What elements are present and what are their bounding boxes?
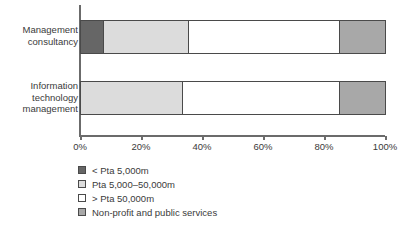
x-axis-tick-label-4: 80% [314, 141, 333, 152]
bar-segment-1 [80, 81, 183, 115]
legend-swatch-icon-2 [78, 194, 86, 202]
x-axis-tick-4 [324, 136, 326, 140]
x-axis-line [79, 135, 385, 137]
legend-label-3: Non-profit and public services [92, 207, 217, 218]
x-axis-tick-label-0: 0% [73, 141, 87, 152]
category-label-management-consultancy: Management consultancy [0, 24, 78, 47]
legend-label-0: < Pta 5,000m [92, 165, 149, 176]
bar-segment-3 [339, 20, 386, 54]
x-axis-tick-2 [202, 136, 204, 140]
bar-segment-1 [103, 20, 189, 54]
bar-segment-0 [80, 20, 104, 54]
bar-management-consultancy [80, 20, 386, 54]
chart-legend: < Pta 5,000mPta 5,000–50,000m> Pta 50,00… [78, 163, 217, 219]
x-axis-tick-label-3: 60% [253, 141, 272, 152]
legend-swatch-icon-0 [78, 166, 86, 174]
legend-swatch-icon-1 [78, 180, 86, 188]
legend-item-3[interactable]: Non-profit and public services [78, 205, 217, 219]
legend-label-2: > Pta 50,000m [92, 193, 154, 204]
x-axis-tick-label-5: 100% [373, 141, 397, 152]
legend-label-1: Pta 5,000–50,000m [92, 179, 175, 190]
x-axis-tick-3 [263, 136, 265, 140]
bar-segment-3 [339, 81, 386, 115]
bar-segment-2 [182, 81, 340, 115]
bar-segment-2 [188, 20, 340, 54]
legend-swatch-icon-3 [78, 208, 86, 216]
category-label-information-technology-management: Information technology management [0, 80, 78, 115]
x-axis-tick-0 [80, 136, 82, 140]
legend-item-2[interactable]: > Pta 50,000m [78, 191, 217, 205]
x-axis-tick-label-1: 20% [131, 141, 150, 152]
bar-information-technology-management [80, 81, 386, 115]
x-axis-tick-5 [385, 136, 387, 140]
stacked-bar-chart: Management consultancy Information techn… [0, 0, 407, 236]
legend-item-0[interactable]: < Pta 5,000m [78, 163, 217, 177]
legend-item-1[interactable]: Pta 5,000–50,000m [78, 177, 217, 191]
x-axis-tick-label-2: 40% [192, 141, 211, 152]
x-axis-tick-1 [141, 136, 143, 140]
